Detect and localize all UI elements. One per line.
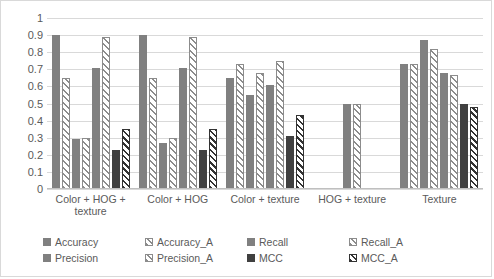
y-axis-tick-label: 1 bbox=[1, 13, 43, 24]
y-axis-tick-label: 0.2 bbox=[1, 149, 43, 160]
legend-swatch-icon bbox=[43, 254, 51, 262]
chart-legend: AccuracyAccuracy_ARecallRecall_APrecisio… bbox=[1, 235, 493, 265]
y-axis-tick-label: 0.8 bbox=[1, 47, 43, 58]
x-axis-category-label: Color + texture bbox=[221, 193, 308, 229]
legend-item[interactable]: Accuracy bbox=[43, 235, 145, 249]
legend-item-label: Accuracy bbox=[55, 235, 98, 249]
y-axis-tick-label: 0.7 bbox=[1, 64, 43, 75]
bar[interactable] bbox=[179, 68, 187, 189]
legend-item-label: MCC bbox=[259, 251, 283, 265]
legend-item[interactable]: MCC_A bbox=[349, 251, 451, 265]
bar[interactable] bbox=[450, 75, 458, 189]
legend-item-label: Precision_A bbox=[157, 251, 213, 265]
bar[interactable] bbox=[149, 78, 157, 189]
legend-item[interactable]: Precision_A bbox=[145, 251, 247, 265]
legend-item[interactable]: Accuracy_A bbox=[145, 235, 247, 249]
bar[interactable] bbox=[343, 104, 351, 190]
bar[interactable] bbox=[430, 49, 438, 189]
bar[interactable] bbox=[420, 40, 428, 189]
bar[interactable] bbox=[122, 129, 130, 189]
bar-group bbox=[396, 18, 483, 189]
legend-swatch-icon bbox=[43, 238, 51, 246]
chart-container: 10.90.80.70.60.50.40.30.20.10 Color + HO… bbox=[0, 0, 492, 277]
bar[interactable] bbox=[266, 85, 274, 189]
bar[interactable] bbox=[199, 150, 207, 189]
bar[interactable] bbox=[286, 136, 294, 189]
legend-swatch-icon bbox=[349, 254, 357, 262]
x-axis-category-label: Color + HOG + texture bbox=[47, 193, 134, 229]
bar[interactable] bbox=[226, 78, 234, 189]
legend-swatch-icon bbox=[145, 238, 153, 246]
bar[interactable] bbox=[470, 107, 478, 189]
bar[interactable] bbox=[256, 73, 264, 189]
legend-item-label: Recall_A bbox=[361, 235, 403, 249]
bar[interactable] bbox=[169, 138, 177, 189]
y-axis: 10.90.80.70.60.50.40.30.20.10 bbox=[1, 18, 43, 189]
bar[interactable] bbox=[189, 37, 197, 189]
bar-group bbox=[47, 18, 134, 189]
bar[interactable] bbox=[72, 139, 80, 189]
x-axis-category-label: Color + HOG bbox=[134, 193, 221, 229]
bar[interactable] bbox=[410, 64, 418, 189]
legend-item[interactable]: Recall bbox=[247, 235, 349, 249]
legend-swatch-icon bbox=[349, 238, 357, 246]
x-axis-category-label: Texture bbox=[396, 193, 483, 229]
legend-item-label: Recall bbox=[259, 235, 288, 249]
gridline bbox=[47, 189, 483, 190]
y-axis-tick-label: 0.1 bbox=[1, 166, 43, 177]
y-axis-tick-label: 0.6 bbox=[1, 81, 43, 92]
bar[interactable] bbox=[159, 143, 167, 189]
bar[interactable] bbox=[62, 78, 70, 189]
bar-groups bbox=[47, 18, 483, 189]
bar-group bbox=[134, 18, 221, 189]
bar[interactable] bbox=[102, 37, 110, 189]
y-axis-tick-label: 0.5 bbox=[1, 98, 43, 109]
bar[interactable] bbox=[440, 73, 448, 189]
axis-baseline bbox=[47, 188, 483, 189]
legend-item-label: Accuracy_A bbox=[157, 235, 213, 249]
bar[interactable] bbox=[139, 35, 147, 189]
legend-item[interactable]: Recall_A bbox=[349, 235, 451, 249]
x-axis-category-label: HOG + texture bbox=[309, 193, 396, 229]
y-axis-tick-label: 0.9 bbox=[1, 30, 43, 41]
y-axis-tick-label: 0.4 bbox=[1, 115, 43, 126]
legend-swatch-icon bbox=[247, 254, 255, 262]
bar[interactable] bbox=[209, 129, 217, 189]
bar[interactable] bbox=[400, 64, 408, 189]
bar[interactable] bbox=[296, 115, 304, 189]
bar[interactable] bbox=[353, 104, 361, 190]
bar[interactable] bbox=[276, 61, 284, 189]
legend-item[interactable]: MCC bbox=[247, 251, 349, 265]
bar[interactable] bbox=[82, 138, 90, 189]
bar[interactable] bbox=[246, 95, 254, 189]
bar[interactable] bbox=[460, 104, 468, 190]
legend-item-label: Precision bbox=[55, 251, 98, 265]
bar[interactable] bbox=[52, 35, 60, 189]
bar[interactable] bbox=[112, 150, 120, 189]
y-axis-tick-label: 0.3 bbox=[1, 132, 43, 143]
legend-swatch-icon bbox=[145, 254, 153, 262]
bar[interactable] bbox=[92, 68, 100, 189]
bar-group bbox=[309, 18, 396, 189]
bar-group bbox=[221, 18, 308, 189]
bar[interactable] bbox=[236, 64, 244, 189]
legend-item[interactable]: Precision bbox=[43, 251, 145, 265]
legend-swatch-icon bbox=[247, 238, 255, 246]
plot-area bbox=[47, 18, 483, 189]
y-axis-tick-label: 0 bbox=[1, 184, 43, 195]
legend-item-label: MCC_A bbox=[361, 251, 398, 265]
x-axis-category-labels: Color + HOG + textureColor + HOGColor + … bbox=[47, 193, 483, 229]
